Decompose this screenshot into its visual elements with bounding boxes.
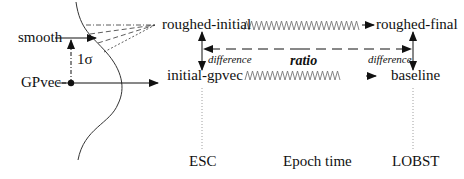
label-difference-left: difference xyxy=(208,54,252,65)
label-roughed-final: roughed-final xyxy=(376,17,458,32)
label-baseline: baseline xyxy=(391,68,440,83)
label-epoch-time: Epoch time xyxy=(283,154,352,169)
label-esc: ESC xyxy=(189,154,217,169)
label-lobst: LOBST xyxy=(392,154,440,169)
wave-bottom xyxy=(245,71,340,80)
wave-top xyxy=(244,21,359,30)
distribution-curve xyxy=(76,2,122,160)
label-gpvec: GPvec xyxy=(21,75,61,90)
label-sigma: 1σ xyxy=(77,52,93,67)
sampling-rays xyxy=(86,25,155,52)
label-initial-gpvec: initial-gpvec xyxy=(167,68,243,83)
label-smooth: smooth xyxy=(18,30,62,45)
label-difference-right: difference xyxy=(368,54,412,65)
label-roughed-initial: roughed-initial xyxy=(162,17,251,32)
label-ratio: ratio xyxy=(290,54,317,68)
